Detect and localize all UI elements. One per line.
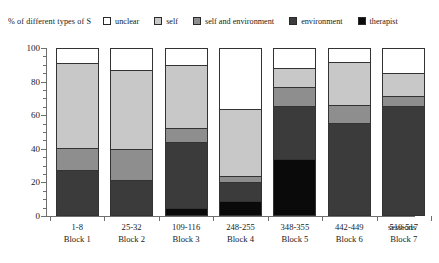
bar-slot — [377, 48, 431, 216]
y-axis-tick-major — [41, 182, 47, 183]
stacked-bar[interactable] — [110, 48, 153, 216]
x-axis-tick-label: 109-116Block 3 — [159, 222, 213, 250]
y-axis-tick-minor — [43, 191, 47, 192]
bar-segment-therapist[interactable] — [166, 208, 207, 215]
y-axis-tick-major — [41, 48, 47, 49]
x-axis-block-name: Block 3 — [159, 234, 213, 246]
legend-swatch-unclear — [103, 17, 111, 25]
y-axis-tick-major — [41, 82, 47, 83]
x-axis-sessions-range: 442-449 — [322, 222, 376, 234]
y-axis-tick-minor — [43, 166, 47, 167]
x-axis-line — [46, 216, 415, 217]
legend-entry-therapist: therapist — [358, 17, 398, 26]
x-axis-tick-label: 442-449Block 6 — [322, 222, 376, 250]
bar-segment-environment[interactable] — [166, 142, 207, 208]
legend-entry-unclear: unclear — [103, 17, 139, 26]
y-axis-tick-label: 60 — [6, 110, 40, 120]
x-axis-block-name: Block 7 — [377, 234, 431, 246]
bar-slot — [159, 48, 213, 216]
bar-segment-self[interactable] — [57, 63, 98, 148]
bar-segment-unclear[interactable] — [274, 49, 315, 68]
stacked-bar[interactable] — [328, 48, 371, 216]
chart-legend: % of different types of S unclear self s… — [0, 13, 439, 29]
bar-segment-therapist[interactable] — [220, 201, 261, 215]
y-axis-tick-minor — [43, 208, 47, 209]
bar-segment-unclear[interactable] — [383, 49, 424, 73]
x-axis-tick — [104, 216, 105, 221]
bar-segment-self[interactable] — [220, 109, 261, 176]
x-axis-tick — [377, 216, 378, 221]
legend-entry-self: self — [154, 17, 178, 26]
legend-swatch-self-and-environment — [193, 17, 201, 25]
y-axis-tick-minor — [43, 157, 47, 158]
legend-items: unclear self self and environment enviro… — [103, 17, 413, 26]
bar-segment-unclear[interactable] — [57, 49, 98, 63]
x-axis-tick — [159, 216, 160, 221]
bar-segment-unclear[interactable] — [329, 49, 370, 62]
legend-swatch-self — [154, 17, 162, 25]
stacked-bar[interactable] — [165, 48, 208, 216]
bar-segment-self-and-environment[interactable] — [166, 128, 207, 142]
legend-label-unclear: unclear — [115, 17, 139, 26]
legend-swatch-therapist — [358, 17, 366, 25]
bar-segment-self[interactable] — [166, 65, 207, 128]
bar-slot — [322, 48, 376, 216]
bar-segment-self[interactable] — [111, 70, 152, 149]
bar-segment-self-and-environment[interactable] — [57, 148, 98, 170]
x-axis-tick-label: 1-8Block 1 — [50, 222, 104, 250]
x-axis-labels: 1-8Block 125-32Block 2109-116Block 3248-… — [50, 222, 431, 250]
bar-slot — [268, 48, 322, 216]
bar-segment-self-and-environment[interactable] — [329, 105, 370, 122]
x-axis-tick — [431, 216, 432, 221]
y-axis-labels: 020406080100 — [0, 48, 40, 216]
bar-segment-unclear[interactable] — [220, 49, 261, 109]
bar-segment-self-and-environment[interactable] — [111, 149, 152, 179]
bar-segment-self[interactable] — [329, 62, 370, 105]
y-axis-tick-label: 80 — [6, 77, 40, 87]
bar-segment-therapist[interactable] — [274, 159, 315, 215]
bar-segment-environment[interactable] — [274, 106, 315, 159]
y-axis-title: % of different types of S — [8, 17, 91, 26]
x-axis-sessions-range: 1-8 — [50, 222, 104, 234]
bar-segment-environment[interactable] — [383, 106, 424, 215]
legend-label-self: self — [166, 17, 178, 26]
bar-segment-unclear[interactable] — [111, 49, 152, 70]
y-axis-tick-label: 20 — [6, 177, 40, 187]
bar-segment-self-and-environment[interactable] — [274, 87, 315, 106]
x-axis-tick-label: 25-32Block 2 — [104, 222, 158, 250]
x-axis-tick — [213, 216, 214, 221]
x-axis-tick — [50, 216, 51, 221]
y-axis-tick-minor — [43, 98, 47, 99]
x-axis-block-name: Block 1 — [50, 234, 104, 246]
bar-segment-self[interactable] — [274, 68, 315, 87]
y-axis-tick-minor — [43, 174, 47, 175]
x-axis-block-name: Block 6 — [322, 234, 376, 246]
x-axis-tick-label: 348-355Block 5 — [268, 222, 322, 250]
stacked-bar[interactable] — [382, 48, 425, 216]
y-axis-tick-label: 40 — [6, 144, 40, 154]
x-axis-block-name: Block 5 — [268, 234, 322, 246]
bar-segment-environment[interactable] — [329, 123, 370, 215]
bar-segment-environment[interactable] — [57, 170, 98, 215]
bar-segment-environment[interactable] — [220, 182, 261, 201]
y-axis-tick-major — [41, 149, 47, 150]
stacked-bar[interactable] — [56, 48, 99, 216]
y-axis-tick-label: 0 — [6, 211, 40, 221]
x-axis-block-name: Block 4 — [213, 234, 267, 246]
legend-swatch-environment — [289, 17, 297, 25]
bar-group — [50, 48, 431, 216]
bar-slot — [104, 48, 158, 216]
bar-segment-self[interactable] — [383, 73, 424, 95]
bar-segment-self-and-environment[interactable] — [383, 96, 424, 107]
bar-segment-unclear[interactable] — [166, 49, 207, 65]
x-axis-sessions-range: 25-32 — [104, 222, 158, 234]
stacked-bar[interactable] — [219, 48, 262, 216]
y-axis-tick-minor — [43, 199, 47, 200]
x-axis-block-name: Block 2 — [104, 234, 158, 246]
y-axis-tick-minor — [43, 107, 47, 108]
bar-segment-environment[interactable] — [111, 180, 152, 215]
legend-entry-self-and-environment: self and environment — [193, 17, 274, 26]
stacked-bar[interactable] — [273, 48, 316, 216]
x-axis-title: sessions — [388, 222, 416, 232]
y-axis-tick-minor — [43, 73, 47, 74]
